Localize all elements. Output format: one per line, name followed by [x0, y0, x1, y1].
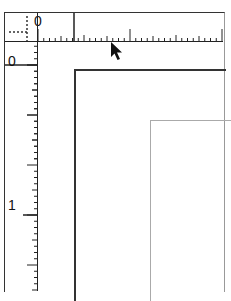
ruler-divider-vertical — [37, 13, 38, 291]
horizontal-ruler[interactable]: 0 — [38, 13, 223, 41]
crosshair-icon — [5, 13, 37, 41]
vertical-ruler-label-0: 0 — [8, 54, 16, 68]
vertical-ruler-label-1: 1 — [8, 198, 16, 212]
vertical-ruler[interactable]: 0 1 — [5, 42, 37, 291]
arrow-pointer-icon — [110, 42, 126, 62]
margin-guide — [150, 120, 231, 301]
ruler-zero-point[interactable] — [5, 13, 37, 41]
